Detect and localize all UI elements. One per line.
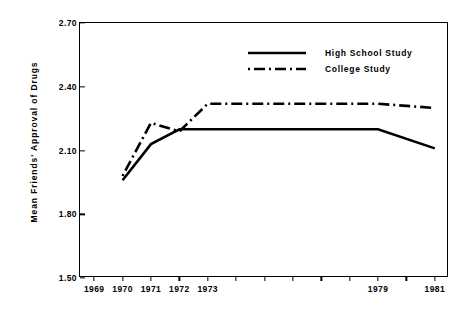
x-tick-label: 1973 — [197, 284, 218, 294]
y-tick-label: 2.40 — [59, 82, 77, 92]
chart-legend: High School Study College Study — [247, 45, 437, 77]
x-tick-label: 1981 — [425, 284, 446, 294]
legend-swatch-dash-dot-line — [247, 63, 307, 75]
y-tick-label: 1.80 — [59, 209, 77, 219]
legend-swatch-solid-line — [247, 47, 307, 59]
series-line-high-school-study — [123, 129, 435, 180]
series-line-college-study — [123, 104, 435, 176]
x-tick-label: 1971 — [141, 284, 162, 294]
legend-label-college-study: College Study — [325, 64, 391, 74]
y-tick-label: 2.70 — [59, 18, 77, 28]
legend-item-college-study: College Study — [247, 61, 437, 77]
x-tick-label: 1970 — [112, 284, 133, 294]
x-tick-label: 1979 — [368, 284, 389, 294]
y-tick-label: 2.10 — [59, 146, 77, 156]
x-tick-label: 1969 — [84, 284, 105, 294]
chart-figure: Mean Friends' Approval of Drugs 2.702.40… — [0, 0, 468, 318]
y-axis-title: Mean Friends' Approval of Drugs — [29, 22, 39, 262]
y-tick-label: 1.50 — [59, 273, 77, 283]
legend-label-high-school-study: High School Study — [325, 48, 412, 58]
x-tick-label: 1972 — [169, 284, 190, 294]
plot-area: 2.702.402.101.801.50 1969197019711972197… — [79, 22, 448, 277]
legend-item-high-school-study: High School Study — [247, 45, 437, 61]
